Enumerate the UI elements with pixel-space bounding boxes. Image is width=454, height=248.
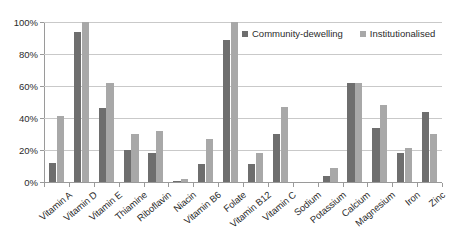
bar (422, 112, 429, 182)
bar (131, 134, 138, 182)
bar-group (168, 22, 193, 182)
x-axis-category-label: Zinc (427, 189, 448, 209)
legend-swatch-icon (242, 31, 248, 37)
bar-group (243, 22, 268, 182)
x-axis-tick (293, 183, 294, 187)
legend-entry: Institutionalised (360, 28, 435, 39)
legend-label: Community-dewelling (252, 28, 343, 39)
x-axis-tick (392, 183, 393, 187)
bar (397, 153, 404, 182)
bar-group (144, 22, 169, 182)
bar (74, 32, 81, 182)
bar-group (293, 22, 318, 182)
bar-group (268, 22, 293, 182)
y-axis-tick (40, 86, 44, 87)
bar (198, 164, 205, 182)
bar (405, 148, 412, 182)
x-axis-tick (343, 183, 344, 187)
bar (256, 153, 263, 182)
bar (231, 22, 238, 182)
bar (223, 40, 230, 182)
bar-group (119, 22, 144, 182)
x-axis-tick (367, 183, 368, 187)
x-axis-tick (268, 183, 269, 187)
x-axis-tick (119, 183, 120, 187)
bar (124, 150, 131, 182)
bar (106, 83, 113, 182)
bar (430, 134, 437, 182)
x-axis-tick (144, 183, 145, 187)
bar-group (218, 22, 243, 182)
bar (206, 139, 213, 182)
x-axis-tick (44, 183, 45, 187)
bar-group (69, 22, 94, 182)
y-axis-tick (40, 118, 44, 119)
bar (148, 153, 155, 182)
bar-group (367, 22, 392, 182)
x-axis-tick (168, 183, 169, 187)
y-axis-labels: 0%20%40%60%80%100% (0, 0, 40, 248)
x-axis-tick (442, 183, 443, 187)
x-axis-category-label: Iron (403, 189, 422, 208)
x-axis-tick (193, 183, 194, 187)
bar (273, 134, 280, 182)
x-axis-tick (417, 183, 418, 187)
legend-entry: Community-dewelling (242, 28, 343, 39)
chart-legend: Community-dewellingInstitutionalised (239, 26, 438, 41)
x-axis-tick (318, 183, 319, 187)
y-axis-tick (40, 22, 44, 23)
x-axis-tick (218, 183, 219, 187)
bar (99, 108, 106, 182)
y-axis-tick-label: 40% (19, 113, 38, 124)
bar-group (343, 22, 368, 182)
bar-group (44, 22, 69, 182)
y-axis-tick (40, 150, 44, 151)
y-axis-tick-label: 0% (24, 177, 38, 188)
bar (181, 179, 188, 182)
bar (82, 22, 89, 182)
x-axis-tick (94, 183, 95, 187)
bar-chart: 0%20%40%60%80%100% Community-dewellingIn… (0, 0, 454, 248)
bar (323, 176, 330, 182)
bar (57, 116, 64, 182)
plot-area (44, 22, 442, 182)
bar (248, 164, 255, 182)
x-axis-tick (69, 183, 70, 187)
y-axis-tick-label: 100% (14, 17, 38, 28)
y-axis-tick-label: 60% (19, 81, 38, 92)
y-axis-tick-label: 20% (19, 145, 38, 156)
bar (49, 163, 56, 182)
bar (372, 128, 379, 182)
bar (281, 107, 288, 182)
bar-group (193, 22, 218, 182)
y-axis-tick (40, 54, 44, 55)
bar-group (318, 22, 343, 182)
bar (330, 168, 337, 182)
bar (173, 181, 180, 182)
x-axis-tick (243, 183, 244, 187)
legend-label: Institutionalised (370, 28, 435, 39)
bar-group (94, 22, 119, 182)
bar (347, 83, 354, 182)
bar (380, 105, 387, 182)
bar-group (392, 22, 417, 182)
bar (355, 83, 362, 182)
y-axis-tick-label: 80% (19, 49, 38, 60)
bar (156, 131, 163, 182)
legend-swatch-icon (360, 31, 366, 37)
bar-group (417, 22, 442, 182)
